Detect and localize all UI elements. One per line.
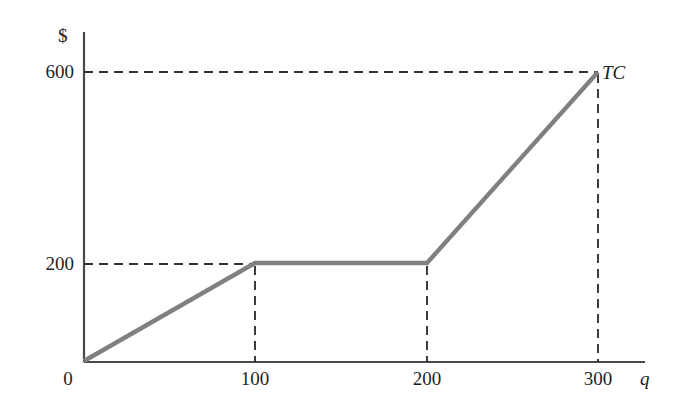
y-tick-label-600: 600 xyxy=(10,62,74,81)
x-tick-label-0: 0 xyxy=(48,369,88,388)
x-tick-label-200: 200 xyxy=(395,369,459,388)
tc-curve-label: TC xyxy=(602,63,625,82)
x-axis-caption: q xyxy=(640,369,650,388)
chart-figure: $ 600 200 0 100 200 300 q TC xyxy=(0,0,681,409)
x-tick-label-100: 100 xyxy=(223,369,287,388)
y-tick-label-200: 200 xyxy=(10,254,74,273)
chart-plot-area xyxy=(0,0,681,409)
y-axis-caption: $ xyxy=(58,26,68,45)
x-tick-label-300: 300 xyxy=(566,369,630,388)
tc-curve xyxy=(84,72,598,361)
